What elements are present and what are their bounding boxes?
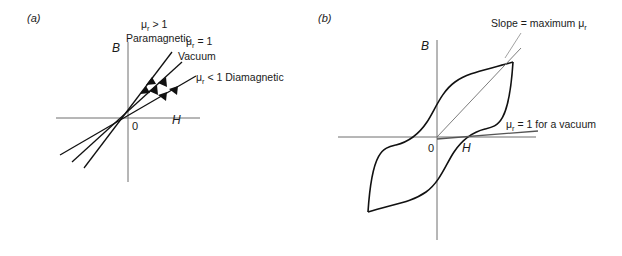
panel-a: (a) B H 0 xyxy=(27,12,284,182)
panel-b-vacuum-line xyxy=(437,131,538,139)
max-slope-subscript: r xyxy=(584,23,587,32)
panel-b: (b) B H 0 Slope = maximum μr μr xyxy=(318,12,596,240)
panel-a-annotation-paramagnetic-name: Paramagnetic xyxy=(126,32,191,44)
panel-a-line-vacuum xyxy=(72,62,182,162)
panel-a-origin-label: 0 xyxy=(132,120,138,132)
max-slope-text: Slope = maximum μ xyxy=(491,17,584,29)
panel-b-annotation-vacuum-slope: μr = 1 for a vacuum xyxy=(506,118,596,133)
panel-a-x-axis-label: H xyxy=(172,113,181,127)
panel-b-origin-label: 0 xyxy=(428,142,434,154)
panel-b-slope-leader-line xyxy=(505,33,521,58)
mu-relation-paramagnetic: > 1 xyxy=(150,18,168,30)
panel-b-y-axis-label: B xyxy=(421,39,429,53)
panel-a-y-axis-label: B xyxy=(112,41,120,55)
panel-b-label: (b) xyxy=(318,12,332,24)
arrowhead-paramagnetic-1 xyxy=(146,77,156,85)
arrowhead-vacuum-2 xyxy=(149,85,158,95)
panel-a-annotation-diamagnetic: μr < 1 Diamagnetic xyxy=(196,71,284,86)
panel-a-annotation-paramagnetic-mu: μr > 1 xyxy=(141,18,168,33)
arrowhead-vacuum-1 xyxy=(158,77,167,87)
arrowhead-diamagnetic-2 xyxy=(158,92,167,101)
panel-b-annotation-max-slope: Slope = maximum μr xyxy=(491,17,587,32)
panel-a-annotation-vacuum-name: Vacuum xyxy=(178,50,216,62)
panel-a-annotation-vacuum-mu: μr = 1 xyxy=(186,35,213,50)
mu-relation-diamagnetic: < 1 Diamagnetic xyxy=(205,71,284,83)
vacuum-mu-rest: = 1 for a vacuum xyxy=(515,118,597,130)
mu-relation-vacuum: = 1 xyxy=(195,35,213,47)
panel-a-label: (a) xyxy=(27,12,41,24)
figure-canvas: (a) B H 0 xyxy=(0,0,622,256)
figure-container: (a) B H 0 xyxy=(0,0,622,256)
panel-b-x-axis-label: H xyxy=(462,141,471,155)
